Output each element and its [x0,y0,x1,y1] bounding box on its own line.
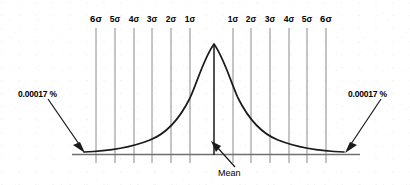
right-percent-callout-arrow [345,99,381,153]
sigma-tick-label-plus-5: 5σ [302,15,313,24]
sigma-tick-label-plus-3: 3σ [265,15,276,24]
mean-label: Mean [218,169,241,178]
sigma-tick-label-plus-6: 6σ [320,14,332,24]
right-tail-percent-label: 0.00017 % [348,90,387,99]
left-tail-percent-label: 0.00017 % [18,90,57,99]
sigma-tick-label-plus-1: 1σ [228,15,239,24]
six-sigma-distribution-figure: 6σ 5σ 4σ 3σ 2σ 1σ 1σ 2σ 3σ 4σ 5σ 6σ 0.00… [0,0,410,185]
sigma-tick-label-minus-2: 2σ [166,15,177,24]
sigma-tick-label-minus-1: 1σ [185,15,196,24]
sigma-tick-label-plus-4: 4σ [284,15,295,24]
sigma-tick-label-minus-3: 3σ [147,15,158,24]
sigma-tick-label-minus-6: 6σ [90,14,102,24]
sigma-tick-label-plus-2: 2σ [246,15,257,24]
sigma-tick-label-minus-4: 4σ [129,15,140,24]
left-percent-callout-arrow [48,99,85,153]
sigma-tick-label-minus-5: 5σ [110,15,121,24]
